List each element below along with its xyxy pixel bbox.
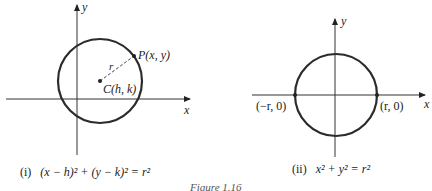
radius-dashed-line — [100, 56, 134, 81]
caption-i-number: (i) — [20, 165, 31, 179]
x-axis-label: x — [424, 97, 429, 112]
caption-i: (i) (x − h)² + (y − k)² = r² — [20, 165, 150, 180]
point-neg-r — [293, 93, 297, 97]
x-axis-label: x — [184, 103, 189, 118]
point-pos-r — [375, 93, 379, 97]
caption-ii-equation: x² + y² = r² — [316, 162, 370, 176]
y-axis-label: y — [82, 0, 87, 15]
center-label: C(h, k) — [103, 82, 136, 97]
caption-ii-number: (ii) — [292, 162, 307, 176]
point-p — [132, 54, 136, 58]
pos-r-point-label: (r, 0) — [380, 99, 404, 114]
figure-title: Figure 1.16 — [190, 181, 242, 191]
caption-i-equation: (x − h)² + (y − k)² = r² — [40, 165, 150, 179]
panel-ii-graph — [252, 19, 425, 157]
radius-label: r — [109, 60, 113, 72]
panel-i-graph — [6, 5, 190, 155]
center-point — [98, 79, 102, 83]
caption-ii: (ii) x² + y² = r² — [292, 162, 370, 177]
neg-r-point-label: (−r, 0) — [256, 99, 286, 114]
point-p-label: P(x, y) — [138, 48, 170, 63]
y-axis-label: y — [341, 14, 346, 29]
